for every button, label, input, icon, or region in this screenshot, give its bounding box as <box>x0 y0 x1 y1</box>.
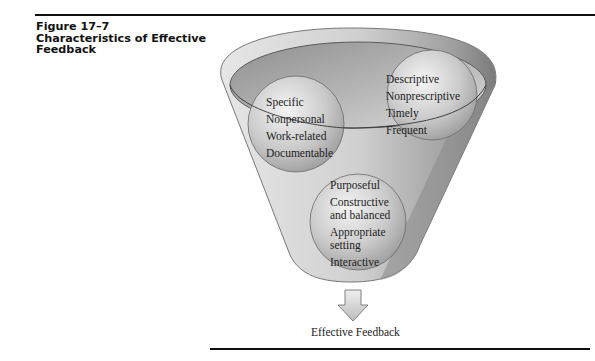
right-item-1: Descriptive <box>386 73 439 86</box>
down-arrow-icon <box>338 290 368 321</box>
left-item-1: Specific <box>266 96 304 109</box>
left-item-3: Work-related <box>266 130 326 143</box>
bottom-item-1: Purposeful <box>330 179 380 192</box>
bottom-item-3b: setting <box>330 239 361 252</box>
output-label: Effective Feedback <box>311 326 400 339</box>
funnel-diagram <box>0 0 595 361</box>
right-item-4: Frequent <box>386 124 427 137</box>
right-item-3: Timely <box>386 107 419 120</box>
bottom-item-4: Interactive <box>330 256 379 269</box>
bottom-item-2b: and balanced <box>330 209 390 222</box>
left-item-2: Nonpersonal <box>266 113 325 126</box>
left-item-4: Documentable <box>266 147 333 160</box>
right-item-2: Nonprescriptive <box>386 90 460 103</box>
bottom-item-2a: Constructive <box>330 196 389 209</box>
bottom-item-3a: Appropriate <box>330 226 386 239</box>
bottom-rule <box>210 348 590 350</box>
